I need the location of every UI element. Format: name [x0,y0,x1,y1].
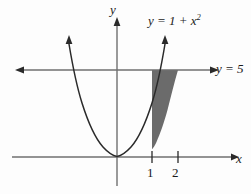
graph-canvas [0,0,251,194]
y-axis-arrowhead [114,17,121,26]
x-tick-label-2: 2 [172,166,179,179]
parabola-left-arrowhead [66,35,73,44]
figure-container: y = 1 + x2 y = 5 y x 1 2 [0,0,251,194]
x-tick-label-1: 1 [147,166,154,179]
y-axis-label: y [110,3,116,16]
y5-left-arrowhead [15,67,24,74]
curve-equation-exponent: 2 [197,12,201,22]
curve-equation-label: y = 1 + x2 [148,14,201,27]
horizontal-line-label: y = 5 [216,62,244,75]
parabola-right-arrowhead [162,35,169,44]
shaded-region [152,70,178,149]
x-axis-label: x [236,152,242,165]
